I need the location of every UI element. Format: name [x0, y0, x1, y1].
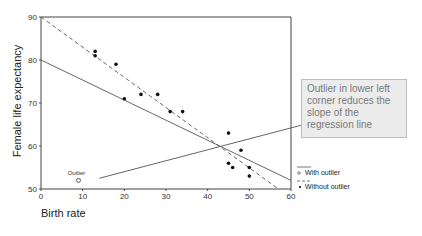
legend-label-with-outlier: With outlier [305, 169, 341, 176]
outlier-point [77, 178, 81, 182]
data-point [139, 93, 143, 97]
legend-label-without-outlier: Without outlier [305, 183, 350, 190]
x-tick-label: 60 [287, 192, 296, 201]
x-tick-label: 50 [245, 192, 254, 201]
data-point [93, 50, 97, 54]
x-tick-label: 30 [162, 192, 171, 201]
data-point [239, 149, 243, 153]
y-tick-label: 50 [28, 185, 37, 194]
regression-line-solid [41, 60, 291, 180]
data-point [227, 131, 231, 135]
data-point [93, 54, 97, 58]
outlier-label: Outlier [68, 170, 86, 176]
data-point [114, 63, 118, 67]
y-tick-label: 80 [28, 56, 37, 65]
legend-filled-dot-icon [299, 186, 301, 188]
regression-line-dashed [41, 17, 279, 189]
y-tick-label: 60 [28, 142, 37, 151]
data-point [168, 110, 172, 114]
x-tick-label: 0 [39, 192, 44, 201]
x-tick-label: 40 [203, 192, 212, 201]
x-axis-label: Birth rate [41, 207, 86, 219]
regression-lines [41, 17, 302, 189]
data-point [231, 166, 235, 170]
x-tick-label: 10 [78, 192, 87, 201]
annotation-box: Outlier in lower left corner reduces the… [301, 79, 407, 138]
data-point [248, 174, 252, 178]
data-point [123, 97, 127, 101]
data-point [156, 93, 160, 97]
y-tick-label: 90 [28, 13, 37, 22]
data-point [248, 166, 252, 170]
data-point [227, 161, 231, 165]
y-tick-label: 70 [28, 99, 37, 108]
data-point [181, 110, 185, 114]
y-axis-label: Female life expectancy [11, 36, 23, 166]
legend: With outlierWithout outlier [297, 167, 350, 190]
legend-open-circle-icon [298, 172, 301, 175]
x-tick-label: 20 [120, 192, 129, 201]
